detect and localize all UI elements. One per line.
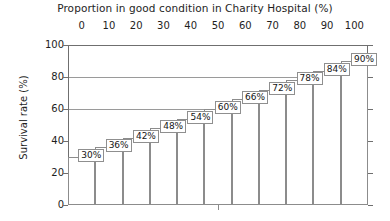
y-axis-tick-label: 20 (30, 167, 64, 178)
bar (232, 99, 259, 205)
y-axis-tick-label: 80 (30, 71, 64, 82)
bar-value-label: 48% (160, 120, 186, 133)
bar-value-label: 30% (78, 149, 104, 162)
bar-value-label: 66% (242, 91, 268, 104)
bar (286, 80, 313, 205)
bar-value-label: 72% (269, 82, 295, 95)
y-axis-label: Survival rate (%) (18, 58, 29, 178)
y-axis-tick-mark (63, 205, 68, 206)
bar-value-label: 42% (133, 130, 159, 143)
bar-value-label: 54% (187, 111, 213, 124)
bar (313, 71, 340, 205)
bar-value-label: 60% (215, 101, 241, 114)
bar (341, 61, 368, 205)
bar (68, 157, 95, 205)
bar-value-label: 90% (351, 53, 377, 66)
x-axis-tick-label: 100 (334, 20, 374, 31)
y-axis-tick-label: 100 (30, 39, 64, 50)
y-axis-tick-label: 40 (30, 135, 64, 146)
plot-area: 30%36%42%48%54%60%66%72%78%84%90% (68, 45, 368, 205)
bar-value-label: 36% (106, 139, 132, 152)
y-axis-tick-label: 0 (30, 199, 64, 210)
x-axis-tick-labels: 0102030405060708090100 (68, 20, 368, 36)
x-axis-center-tick-mark (218, 205, 219, 210)
right-axis-tick-mark (368, 205, 373, 206)
right-axis-tick-mark (368, 109, 373, 110)
y-axis-tick-label: 60 (30, 103, 64, 114)
right-axis-tick-mark (368, 173, 373, 174)
bar-value-label: 84% (324, 63, 350, 76)
chart-container: Proportion in good condition in Charity … (0, 0, 390, 221)
bar (259, 90, 286, 205)
bar-value-label: 78% (297, 72, 323, 85)
right-axis-tick-mark (368, 141, 373, 142)
right-axis-tick-mark (368, 77, 373, 78)
right-axis-tick-mark (368, 45, 373, 46)
y-axis-tick-labels: 020406080100 (30, 0, 64, 221)
